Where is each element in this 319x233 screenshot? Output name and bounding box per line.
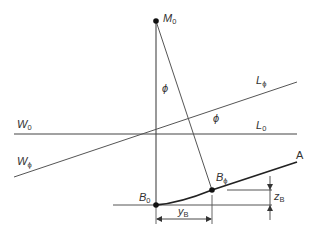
label-bphi: Bϕ xyxy=(216,171,228,185)
line-m0-bphi xyxy=(156,21,212,190)
diagram-canvas: M0 ϕ Lϕ ϕ L0 W0 Wϕ A B0 Bϕ yB zB xyxy=(0,0,319,233)
label-lphi: Lϕ xyxy=(256,74,266,88)
label-a: A xyxy=(296,149,304,161)
label-w0: W0 xyxy=(17,118,32,132)
zb-arrow-bottom xyxy=(267,205,273,211)
label-m0: M0 xyxy=(163,12,176,26)
label-wphi: Wϕ xyxy=(17,155,32,169)
label-phi-top: ϕ xyxy=(162,82,168,94)
label-b0: B0 xyxy=(139,191,151,205)
label-phi-mid: ϕ xyxy=(213,112,219,124)
point-b0 xyxy=(153,202,159,208)
zb-arrow-top xyxy=(267,184,273,190)
label-yb: yB xyxy=(177,205,189,219)
label-zb: zB xyxy=(273,190,285,204)
label-l0: L0 xyxy=(256,119,266,133)
point-m0 xyxy=(153,18,159,24)
point-bphi xyxy=(209,187,215,193)
